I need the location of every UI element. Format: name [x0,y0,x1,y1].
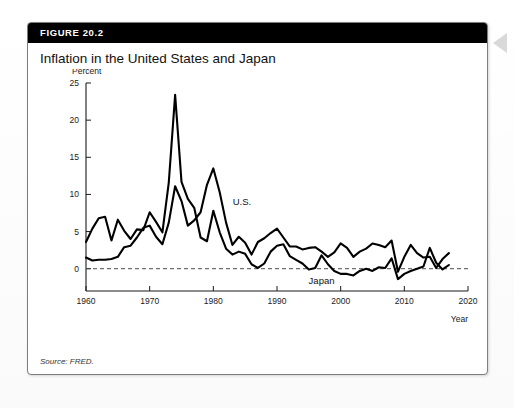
y-axis-tick-label: 0 [74,264,79,274]
x-axis-tick-label: 1960 [77,296,96,306]
x-axis-tick-label: 2020 [459,296,478,306]
y-axis-tick-label: 5 [74,227,79,237]
chart-plot-area: 0510152025Percent19601970198019902000201… [28,69,488,354]
figure-card: FIGURE 20.2 Inflation in the United Stat… [27,22,488,375]
x-axis-tick-label: 1990 [268,296,287,306]
figure-header-bar: FIGURE 20.2 [28,23,487,43]
x-axis-tick-label: 1980 [204,296,223,306]
y-axis-tick-label: 10 [70,189,80,199]
y-axis-tick-label: 20 [70,115,80,125]
figure-number-label: FIGURE 20.2 [40,27,104,38]
source-note: Source: FRED. [40,357,94,366]
x-axis-tick-label: 2000 [331,296,350,306]
x-axis-tick-label: 2010 [395,296,414,306]
x-axis-tick-label: 1970 [140,296,159,306]
figure-title: Inflation in the United States and Japan [40,51,276,66]
y-axis-tick-label: 15 [70,152,80,162]
inflation-line-chart: 0510152025Percent19601970198019902000201… [28,69,488,354]
x-axis-title: Year [451,314,468,324]
y-axis-title: Percent [72,69,102,76]
series-annotation-us: U.S. [233,196,251,207]
page-edge-marker-icon [493,33,507,53]
y-axis-tick-label: 25 [70,78,80,88]
series-annotation-japan: Japan [309,275,335,286]
